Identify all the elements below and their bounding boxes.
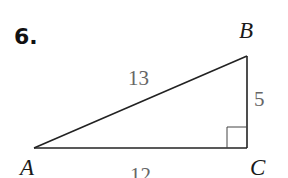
side-label-bc: 5 <box>254 87 265 111</box>
side-label-ac: 12 <box>130 163 151 178</box>
right-angle-marker <box>227 127 247 148</box>
triangle-figure: 6. B A C 13 5 12 <box>0 0 288 178</box>
side-label-ab: 13 <box>128 66 149 90</box>
vertex-label-a: A <box>18 155 35 178</box>
vertex-label-b: B <box>239 18 253 43</box>
problem-number: 6. <box>14 24 38 49</box>
vertex-label-c: C <box>250 155 266 178</box>
